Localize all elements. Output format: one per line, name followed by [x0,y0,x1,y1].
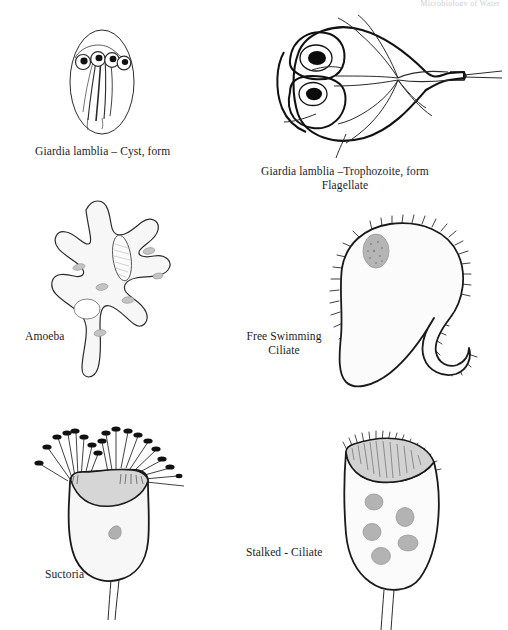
suctoria-stalk-right [115,580,119,620]
stalked-ciliate-figure [312,430,457,630]
illustration-plate: Microbiology of Water [0,0,508,630]
amoeba-contractile-vacuole [74,299,100,319]
stalked-ciliate-granule-2 [396,508,414,527]
suctoria-figure [26,424,201,624]
stalked-ciliate-caption: Stalked - Ciliate [246,546,356,560]
giardia-trophozoite-caption: Giardia lamblia –Trophozoite, form Flage… [240,165,450,192]
amoeba-figure [30,190,180,390]
trophozoite-nucleus-1-karyosome [308,51,326,65]
giardia-cyst-figure [52,22,160,147]
cyst-nucleus-3-karyosome [110,56,117,62]
amoeba-granule-3 [142,247,155,256]
suctoria-drawing [26,424,201,624]
stalked-ciliate-stalk-right [391,590,394,630]
free-swimming-ciliate-figure [330,218,490,413]
free-ciliate-body-outline [340,223,470,386]
trophozoite-caudal-flagellum-lower [464,77,502,78]
giardia-trophozoite-drawing [250,14,508,159]
amoeba-body-outline [52,201,170,377]
trophozoite-nucleus-2-karyosome [306,88,322,100]
giardia-trophozoite-figure [250,14,508,159]
stalked-ciliate-granule-4 [398,535,418,551]
giardia-cyst-caption: Giardia lamblia – Cyst, form [35,145,220,159]
suctoria-caption: Suctoria [45,568,125,582]
amoeba-drawing [30,190,180,390]
page-header-note: Microbiology of Water [420,0,500,6]
free-swimming-ciliate-drawing [330,218,490,413]
cyst-nucleus-4-karyosome [122,59,128,65]
stalked-ciliate-granule-3 [363,524,381,541]
cyst-nucleus-1-karyosome [80,58,87,65]
trophozoite-caudal-flagellum-upper [464,71,502,75]
giardia-cyst-drawing [52,22,160,147]
amoeba-caption: Amoeba [25,330,105,344]
stalked-ciliate-drawing [312,430,457,630]
cyst-nucleus-2-karyosome [96,55,103,62]
suctoria-stalk-left [108,580,111,620]
stalked-ciliate-granule-1 [365,494,383,510]
stalked-ciliate-granule-5 [372,548,391,565]
free-swimming-ciliate-caption: Free Swimming Ciliate [236,330,332,357]
stalked-ciliate-stalk-left [381,590,384,630]
